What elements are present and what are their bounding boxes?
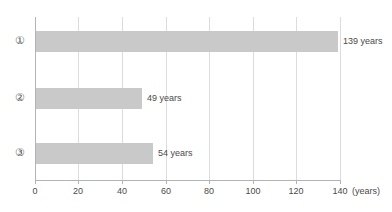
x-tick-mark (78, 180, 79, 184)
x-tick-label: 120 (288, 186, 303, 196)
x-axis-unit-label: (years) (352, 186, 380, 196)
x-tick-label: 60 (161, 186, 171, 196)
x-tick-label: 100 (245, 186, 260, 196)
x-tick-mark (166, 180, 167, 184)
x-tick-label: 80 (204, 186, 214, 196)
bar-value-label-2: 49 years (147, 88, 182, 109)
x-tick-mark (35, 180, 36, 184)
category-label-2: ② (11, 89, 29, 107)
category-label-1: ① (11, 32, 29, 50)
x-tick-label: 140 (332, 186, 347, 196)
x-tick-mark (209, 180, 210, 184)
bar-series-2 (35, 88, 142, 109)
plot-area: 139 years 49 years 54 years (35, 17, 340, 180)
x-tick-label: 0 (32, 186, 37, 196)
gridline (340, 17, 341, 180)
x-tick-mark (122, 180, 123, 184)
x-tick-label: 40 (117, 186, 127, 196)
x-tick-mark (296, 180, 297, 184)
bar-value-label-1: 139 years (343, 31, 383, 52)
bar-chart: 139 years 49 years 54 years ① ② ③ 0 20 4… (0, 0, 392, 212)
bar-value-label-3: 54 years (158, 143, 193, 164)
bar-series-1 (35, 31, 338, 52)
y-axis-line (35, 17, 36, 181)
x-tick-label: 20 (73, 186, 83, 196)
x-tick-mark (340, 180, 341, 184)
x-tick-mark (253, 180, 254, 184)
category-label-3: ③ (11, 144, 29, 162)
bar-series-3 (35, 143, 153, 164)
